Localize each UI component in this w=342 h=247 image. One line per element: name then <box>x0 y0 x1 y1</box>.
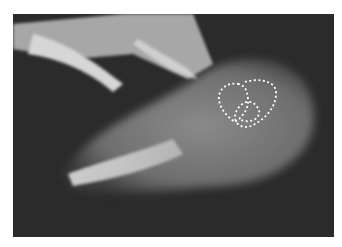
xray-svg <box>13 14 334 237</box>
xray-image <box>13 14 334 237</box>
